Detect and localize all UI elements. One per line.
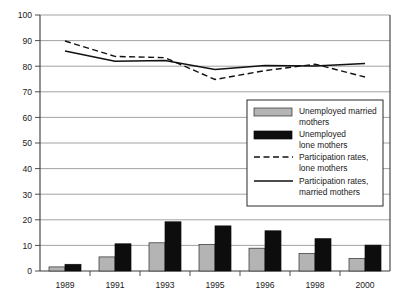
bar-married-1993: [149, 243, 165, 271]
x-tick-1998: 1998: [305, 280, 324, 290]
y-tick-0: 0: [27, 266, 32, 276]
chart-container: 100 90 80 70 60 50 40 30 20 10 0: [0, 0, 404, 304]
y-tick-80: 80: [22, 62, 32, 72]
bar-lone-1991: [115, 244, 131, 271]
legend-label-3-line2: lone mothers: [299, 163, 347, 173]
bar-married-1991: [99, 257, 115, 271]
bar-lone-1989: [65, 264, 81, 271]
y-tick-100: 100: [18, 10, 33, 20]
y-axis-tick-labels: 100 90 80 70 60 50 40 30 20 10 0: [18, 10, 33, 276]
y-tick-50: 50: [22, 138, 32, 148]
legend-swatch-grey-icon: [254, 108, 292, 116]
y-tick-70: 70: [22, 87, 32, 97]
y-tick-60: 60: [22, 113, 32, 123]
y-tick-90: 90: [22, 36, 32, 46]
legend-label-4-line2: married mothers: [299, 187, 360, 197]
x-tick-marks: [90, 271, 340, 276]
legend-label-2-line1: Unemployed: [299, 129, 346, 139]
x-tick-1996: 1996: [255, 280, 274, 290]
legend-label-4-line1: Participation rates,: [299, 176, 368, 186]
bar-married-2000: [349, 259, 365, 272]
bar-lone-2000: [365, 245, 381, 271]
y-tick-10: 10: [22, 241, 32, 251]
legend-label-2-line2: lone mothers: [299, 140, 347, 150]
y-tick-40: 40: [22, 164, 32, 174]
legend-label-1-line2: mothers: [299, 117, 329, 127]
y-tick-marks: [35, 15, 40, 271]
bar-lone-1998: [315, 239, 331, 271]
legend-label-3-line1: Participation rates,: [299, 152, 368, 162]
x-tick-1991: 1991: [105, 280, 124, 290]
x-tick-1995: 1995: [205, 280, 224, 290]
chart-legend: Unemployed married mothers Unemployed lo…: [247, 100, 383, 206]
x-tick-1989: 1989: [55, 280, 74, 290]
y-tick-30: 30: [22, 190, 32, 200]
bar-lone-1996: [265, 231, 281, 271]
legend-label-1-line1: Unemployed married: [299, 106, 377, 116]
bar-married-1996: [249, 248, 265, 271]
bar-married-1989: [49, 267, 65, 271]
bar-lone-1993: [165, 222, 181, 271]
y-tick-20: 20: [22, 215, 32, 225]
bar-married-1998: [299, 254, 315, 271]
bar-married-1995: [199, 245, 215, 271]
x-tick-1993: 1993: [155, 280, 174, 290]
x-axis-tick-labels: 1989 1991 1993 1995 1996 1998 2000: [55, 280, 374, 290]
grouped-bar-line-chart: 100 90 80 70 60 50 40 30 20 10 0: [0, 0, 404, 304]
x-tick-2000: 2000: [355, 280, 374, 290]
legend-swatch-black-icon: [254, 131, 292, 139]
bar-lone-1995: [215, 226, 231, 271]
